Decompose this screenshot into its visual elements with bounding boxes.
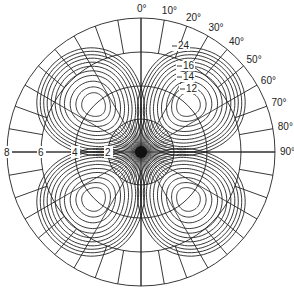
- contour-curve: [167, 178, 212, 223]
- angle-label: 0°: [137, 3, 147, 14]
- ring-label: 8: [4, 147, 10, 158]
- contour-curve: [177, 188, 201, 212]
- polar-diagram: 0°10°20°30°40°50°60°70°80°90°24682416141…: [0, 0, 294, 290]
- radial-tick: [158, 20, 164, 53]
- angle-label: 70°: [271, 97, 286, 108]
- angle-label: 40°: [229, 36, 244, 47]
- contour-label: 24: [178, 40, 190, 51]
- contour-curve: [70, 81, 115, 126]
- radial-tick: [9, 129, 42, 135]
- radial-tick: [118, 250, 124, 283]
- angle-label: 60°: [261, 75, 276, 86]
- angle-label: 80°: [278, 121, 293, 132]
- contour-curve: [64, 75, 120, 131]
- lobe-lower-right: [137, 148, 245, 256]
- polar-grid: [7, 18, 275, 286]
- lobe-upper-left: [37, 48, 145, 156]
- contour-curve: [82, 93, 106, 117]
- contour-label: 12: [186, 83, 198, 94]
- ring-label: 2: [105, 147, 111, 158]
- ring-label: 4: [72, 147, 78, 158]
- contour-label: 14: [183, 71, 195, 82]
- contour-curve: [162, 173, 218, 229]
- angle-label: 90°: [280, 146, 294, 157]
- angle-label: 50°: [247, 54, 262, 65]
- center-dot: [135, 146, 147, 158]
- lobe-lower-left: [37, 148, 145, 256]
- angle-label: 30°: [209, 22, 224, 33]
- radial-tick: [118, 20, 124, 53]
- contour-curve: [82, 188, 106, 212]
- angle-label: 10°: [162, 5, 177, 16]
- labels: 0°10°20°30°40°50°60°70°80°90°24682416141…: [3, 3, 294, 158]
- angle-label: 20°: [186, 12, 201, 23]
- radial-tick: [158, 250, 164, 283]
- ring-label: 6: [38, 147, 44, 158]
- contour-curve: [70, 178, 115, 223]
- contour-curve: [177, 93, 201, 117]
- radial-tick: [9, 169, 42, 175]
- contour-curve: [64, 173, 120, 229]
- radial-tick: [239, 169, 272, 175]
- contour-label: 16: [183, 60, 195, 71]
- radial-tick: [239, 129, 272, 135]
